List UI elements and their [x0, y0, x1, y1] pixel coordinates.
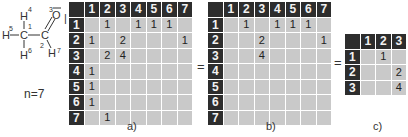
- matrix-cell: [100, 95, 115, 110]
- matrix-cell: [239, 111, 254, 126]
- matrix-cell: [224, 80, 239, 95]
- matrix-cell: [178, 18, 193, 33]
- matrix-cell: [131, 80, 146, 95]
- row-header: 1: [69, 18, 84, 33]
- matrix-cell: [100, 64, 115, 79]
- matrix-cell: 1: [85, 64, 100, 79]
- svg-text:7: 7: [57, 47, 61, 54]
- matrix-cell: 1: [301, 18, 316, 33]
- matrix-cell: [85, 18, 100, 33]
- matrix-cell: [239, 95, 254, 110]
- column-header: 5: [147, 2, 162, 17]
- column-header: 3: [392, 34, 407, 49]
- matrix-cell: 1: [147, 18, 162, 33]
- row-header: 1: [208, 18, 223, 33]
- svg-text:6: 6: [28, 47, 32, 54]
- matrix-cell: 1: [100, 111, 115, 126]
- row-header: 3: [345, 81, 360, 96]
- column-header: 3: [116, 2, 131, 17]
- atom-h6: H: [20, 49, 28, 61]
- matrix-cell: 1: [286, 18, 301, 33]
- matrix-cell: [131, 49, 146, 64]
- row-header: 7: [208, 111, 223, 126]
- matrix-cell: 1: [85, 33, 100, 48]
- svg-text:2: 2: [40, 42, 44, 49]
- matrix-cell: [255, 18, 270, 33]
- matrix-cell: [178, 95, 193, 110]
- matrix-cell: [301, 80, 316, 95]
- matrix-cell: [178, 64, 193, 79]
- row-header: 5: [208, 80, 223, 95]
- matrix-cell: [270, 33, 285, 48]
- svg-text:1: 1: [28, 23, 32, 30]
- caption-c: c): [373, 120, 382, 132]
- matrix-cell: [361, 65, 376, 80]
- row-header: 5: [69, 80, 84, 95]
- atom-count-label: n=7: [24, 87, 44, 101]
- matrix-cell: [270, 95, 285, 110]
- row-header: 6: [69, 95, 84, 110]
- matrix-cell: [286, 49, 301, 64]
- matrix-cell: [301, 95, 316, 110]
- matrix-cell: [270, 49, 285, 64]
- column-header: 1: [224, 2, 239, 17]
- column-header: 7: [178, 2, 193, 17]
- matrix-cell: [147, 95, 162, 110]
- row-header: 2: [345, 65, 360, 80]
- matrix-cell: 1: [317, 33, 332, 48]
- matrix-cell: [317, 111, 332, 126]
- matrix-cell: [317, 64, 332, 79]
- matrix-cell: [147, 33, 162, 48]
- equals-sign: =: [334, 55, 342, 70]
- svg-text:5: 5: [9, 25, 13, 32]
- matrix-cell: [239, 64, 254, 79]
- column-header: 2: [239, 2, 254, 17]
- matrix-cell: [85, 111, 100, 126]
- column-header: 4: [270, 2, 285, 17]
- matrix-cell: 1: [239, 18, 254, 33]
- column-header: 1: [85, 2, 100, 17]
- matrix-cell: [255, 64, 270, 79]
- matrix-cell: [116, 80, 131, 95]
- adjacency-matrix-a: 123456711111212132441516171: [69, 2, 192, 125]
- matrix-corner: [69, 2, 84, 17]
- column-header: 7: [317, 2, 332, 17]
- matrix-cell: [361, 50, 376, 65]
- caption-a: a): [127, 120, 137, 132]
- column-header: 2: [376, 34, 391, 49]
- row-header: 3: [208, 49, 223, 64]
- matrix-cell: [224, 49, 239, 64]
- column-header: 5: [286, 2, 301, 17]
- matrix-cell: [255, 80, 270, 95]
- svg-text:3: 3: [49, 6, 53, 13]
- matrix-cell: [100, 33, 115, 48]
- matrix-cell: 1: [131, 18, 146, 33]
- matrix-cell: 1: [85, 95, 100, 110]
- matrix-cell: 1: [270, 18, 285, 33]
- matrix-cell: [270, 80, 285, 95]
- matrix-cell: [147, 49, 162, 64]
- matrix-cell: 4: [392, 81, 407, 96]
- matrix-cell: 1: [100, 18, 115, 33]
- svg-text:4: 4: [28, 6, 32, 13]
- matrix-cell: [239, 49, 254, 64]
- matrix-cell: [317, 18, 332, 33]
- matrix-cell: [162, 111, 177, 126]
- matrix-cell: [301, 64, 316, 79]
- matrix-cell: 2: [255, 33, 270, 48]
- row-header: 7: [69, 111, 84, 126]
- svg-text:|: |: [64, 12, 67, 24]
- matrix-corner: [208, 2, 223, 17]
- column-header: 4: [131, 2, 146, 17]
- matrix-cell: [361, 81, 376, 96]
- matrix-cell: [286, 111, 301, 126]
- matrix-cell: [147, 80, 162, 95]
- row-header: 6: [208, 95, 223, 110]
- atom-h7: H: [48, 47, 56, 59]
- column-header: 1: [361, 34, 376, 49]
- atom-h4: H: [20, 10, 28, 22]
- matrix-cell: [317, 80, 332, 95]
- row-header: 3: [69, 49, 84, 64]
- matrix-cell: [286, 33, 301, 48]
- acetaldehyde-structure: H 4 H 5 C 1 H 6 C 2 O 3 | H 7: [0, 0, 70, 80]
